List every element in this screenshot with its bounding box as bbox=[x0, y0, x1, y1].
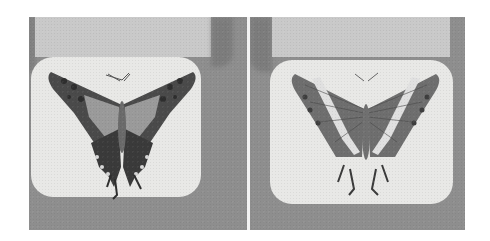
left-butterfly-icon bbox=[29, 17, 247, 230]
right-butterfly-icon bbox=[250, 17, 465, 230]
left-specimen-photo bbox=[29, 17, 247, 230]
right-specimen-photo bbox=[250, 17, 465, 230]
